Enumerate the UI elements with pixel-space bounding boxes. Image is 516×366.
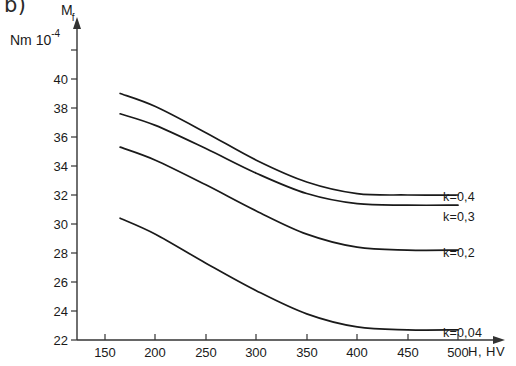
series-curve [120, 94, 458, 196]
x-axis [77, 334, 505, 344]
chart-figure: b) Nm 10-4 Mf H, HV 22 24 26 28 30 32 34… [0, 0, 516, 366]
y-axis [71, 17, 81, 340]
series-curve [120, 218, 458, 330]
series-curve [120, 147, 458, 250]
series-curve [120, 114, 458, 205]
series-curves [120, 94, 458, 331]
chart-canvas [0, 0, 516, 366]
